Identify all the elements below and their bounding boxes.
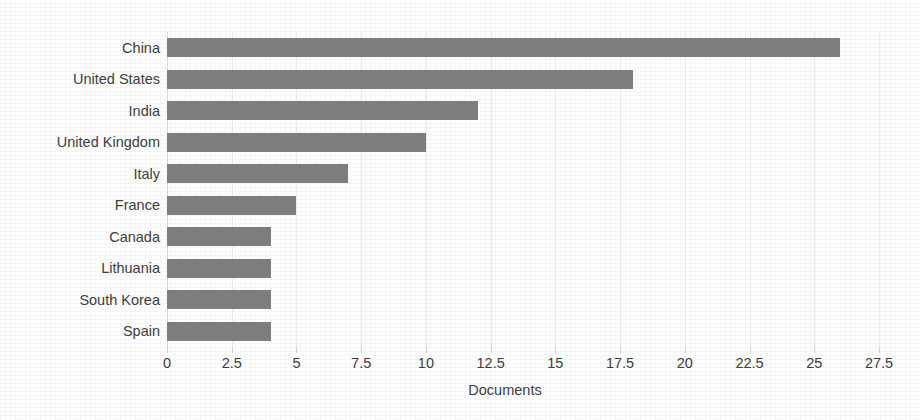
- bar-row: [167, 253, 879, 285]
- bars: [167, 32, 879, 347]
- bar: [167, 164, 348, 183]
- x-axis-tick: [814, 347, 815, 353]
- x-axis-tick-label: 20: [677, 355, 693, 371]
- gridline: [879, 32, 880, 347]
- x-axis-tick: [296, 347, 297, 353]
- y-axis-category-label: France: [0, 197, 160, 213]
- bar-row: [167, 221, 879, 253]
- x-axis-tick: [555, 347, 556, 353]
- y-axis-category-labels: ChinaUnited StatesIndiaUnited KingdomIta…: [0, 32, 160, 347]
- x-axis-tick: [361, 347, 362, 353]
- y-axis-category-label: South Korea: [0, 292, 160, 308]
- y-axis-category-label: United States: [0, 71, 160, 87]
- bar: [167, 133, 426, 152]
- x-axis-tick-label: 25: [806, 355, 822, 371]
- x-axis-tick-label: 10: [418, 355, 434, 371]
- x-axis-tick: [426, 347, 427, 353]
- plot-area: [167, 32, 879, 347]
- x-axis-tick: [620, 347, 621, 353]
- bar-row: [167, 64, 879, 96]
- y-axis-category-label: Lithuania: [0, 260, 160, 276]
- x-axis-tick-label: 7.5: [351, 355, 371, 371]
- x-axis-tick: [685, 347, 686, 353]
- bar: [167, 227, 271, 246]
- x-axis-tick: [750, 347, 751, 353]
- bar: [167, 38, 840, 57]
- bar-row: [167, 316, 879, 348]
- x-axis-tick: [167, 347, 168, 353]
- bar: [167, 290, 271, 309]
- bar-row: [167, 284, 879, 316]
- x-axis-tick-label: 12.5: [477, 355, 505, 371]
- x-axis-tick-label: 0: [163, 355, 171, 371]
- y-axis-category-label: Italy: [0, 166, 160, 182]
- bar-row: [167, 190, 879, 222]
- y-axis-category-label: United Kingdom: [0, 134, 160, 150]
- x-axis-tick-label: 15: [547, 355, 563, 371]
- x-axis-tick-label: 17.5: [606, 355, 634, 371]
- x-axis-tick-label: 22.5: [735, 355, 763, 371]
- y-axis-category-label: India: [0, 103, 160, 119]
- y-axis-category-label: Canada: [0, 229, 160, 245]
- x-axis-tick: [232, 347, 233, 353]
- x-axis-tick-label: 2.5: [222, 355, 242, 371]
- x-axis-tick-labels: 02.557.51012.51517.52022.52527.5: [167, 355, 879, 377]
- x-axis-tick: [491, 347, 492, 353]
- bar-row: [167, 158, 879, 190]
- bar-chart: ChinaUnited StatesIndiaUnited KingdomIta…: [0, 0, 920, 420]
- x-axis-tick: [879, 347, 880, 353]
- x-axis-title: Documents: [0, 382, 920, 398]
- y-axis-category-label: China: [0, 40, 160, 56]
- x-axis-title-text: Documents: [468, 382, 541, 398]
- bar: [167, 322, 271, 341]
- x-axis-tick-label: 27.5: [865, 355, 893, 371]
- x-axis-tick-label: 5: [292, 355, 300, 371]
- bar: [167, 196, 296, 215]
- bar: [167, 259, 271, 278]
- bar: [167, 70, 633, 89]
- bar-row: [167, 95, 879, 127]
- bar: [167, 101, 478, 120]
- bar-row: [167, 32, 879, 64]
- bar-row: [167, 127, 879, 159]
- y-axis-category-label: Spain: [0, 323, 160, 339]
